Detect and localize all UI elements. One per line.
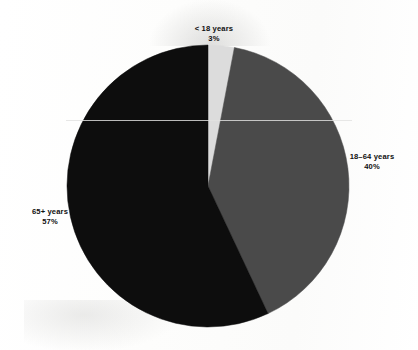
slice-label-18-64: 18–64 years 40% bbox=[330, 152, 414, 172]
slice-label-18-64-text: 18–64 years bbox=[350, 152, 395, 161]
slice-label-65-plus-text: 65+ years bbox=[32, 207, 68, 216]
slice-label-under-18: < 18 years 3% bbox=[159, 24, 269, 44]
pie-chart-svg bbox=[0, 0, 418, 350]
slice-label-18-64-percent: 40% bbox=[330, 162, 414, 172]
slice-label-under-18-percent: 3% bbox=[159, 34, 269, 44]
pie-chart-figure: < 18 years 3% 18–64 years 40% 65+ years … bbox=[0, 0, 418, 350]
slice-label-65-plus-percent: 57% bbox=[8, 217, 92, 227]
chart-plot-area: < 18 years 3% 18–64 years 40% 65+ years … bbox=[0, 0, 418, 350]
slice-label-65-plus: 65+ years 57% bbox=[8, 207, 92, 227]
pie-slices bbox=[67, 45, 349, 327]
slice-label-under-18-text: < 18 years bbox=[195, 24, 233, 33]
